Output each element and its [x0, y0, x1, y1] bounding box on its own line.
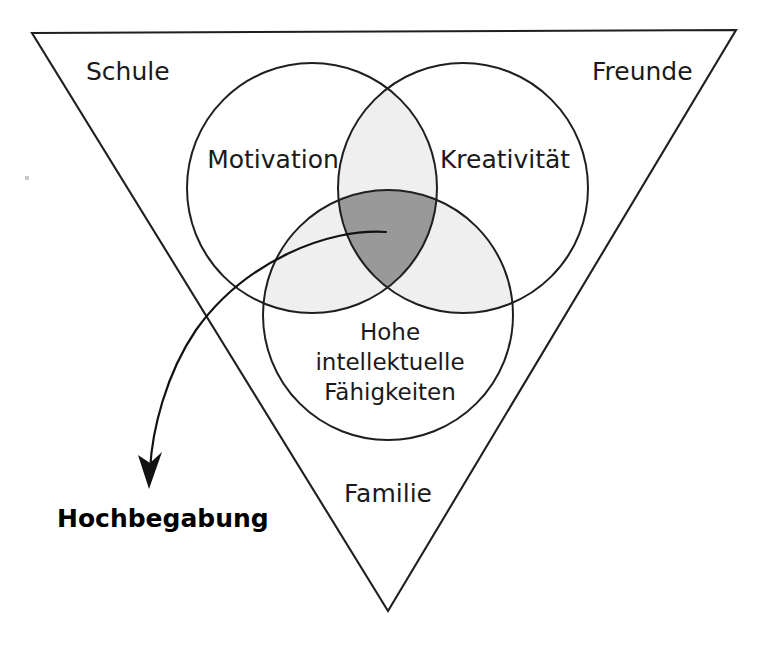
scan-artifact-speck [25, 176, 29, 180]
label-intellekt-line-2: intellektuelle [315, 349, 464, 375]
label-schule: Schule [86, 57, 170, 86]
diagram-canvas: Schule Freunde Familie Motivation Kreati… [0, 0, 769, 645]
label-familie: Familie [344, 479, 432, 508]
label-motivation: Motivation [207, 145, 339, 174]
label-intellektuelle-faehigkeiten: Hohe intellektuelle Fähigkeiten [315, 319, 464, 405]
label-kreativitaet: Kreativität [440, 145, 570, 174]
label-hochbegabung: Hochbegabung [57, 504, 269, 533]
label-intellekt-line-1: Hohe [360, 319, 420, 345]
hochbegabung-venn-diagram: Schule Freunde Familie Motivation Kreati… [0, 0, 769, 645]
label-freunde: Freunde [592, 57, 693, 86]
label-intellekt-line-3: Fähigkeiten [324, 379, 456, 405]
